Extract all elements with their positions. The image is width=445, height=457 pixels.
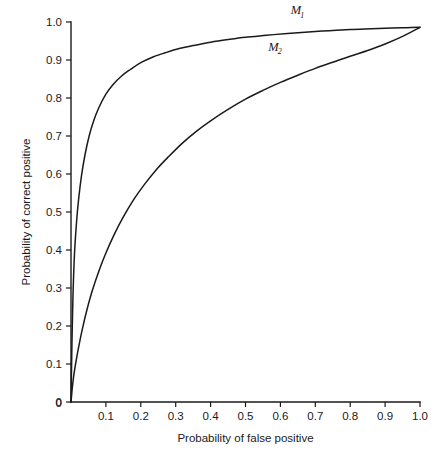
x-tick-label: 0.7 bbox=[307, 410, 323, 422]
y-tick-label: 1.0 bbox=[46, 16, 62, 28]
y-tick-label: 0.7 bbox=[46, 130, 62, 142]
y-tick-label: 0.8 bbox=[46, 92, 62, 104]
roc-chart-figure: 00.10.20.30.40.50.60.70.80.91.0 00.10.20… bbox=[0, 0, 445, 457]
y-axis-ticks bbox=[66, 22, 71, 402]
x-tick-label: 1.0 bbox=[412, 410, 428, 422]
roc-plot-svg: 00.10.20.30.40.50.60.70.80.91.0 00.10.20… bbox=[0, 0, 445, 457]
y-axis-title: Probability of correct positive bbox=[20, 138, 32, 285]
y-tick-label: 0.5 bbox=[46, 206, 62, 218]
x-tick-label: 0.6 bbox=[272, 410, 288, 422]
x-tick-label: 0.2 bbox=[133, 410, 149, 422]
x-tick-label: 0.8 bbox=[342, 410, 358, 422]
y-tick-label: 0.6 bbox=[46, 168, 62, 180]
x-axis-ticks bbox=[106, 402, 420, 407]
series-inline-labels: M1M2 bbox=[267, 3, 304, 56]
x-tick-label: 0.1 bbox=[98, 410, 114, 422]
x-tick-label: 0.5 bbox=[238, 410, 254, 422]
y-tick-label: 0.1 bbox=[46, 358, 62, 370]
x-axis-title: Probability of false positive bbox=[177, 432, 313, 444]
series-curve-m2 bbox=[71, 27, 420, 402]
y-tick-label: 0.4 bbox=[46, 244, 63, 256]
x-axis-tick-labels: 00.10.20.30.40.50.60.70.80.91.0 bbox=[56, 397, 428, 422]
x-tick-label: 0 bbox=[56, 397, 62, 409]
series-curve-m1 bbox=[71, 27, 420, 402]
series-label-subscript: 2 bbox=[278, 47, 282, 56]
x-tick-label: 0.3 bbox=[168, 410, 184, 422]
series-label-m2: M2 bbox=[267, 40, 282, 57]
series-label-m1: M1 bbox=[290, 3, 305, 20]
y-tick-label: 0.3 bbox=[46, 282, 62, 294]
series-label-subscript: 1 bbox=[300, 11, 304, 20]
y-tick-label: 0.2 bbox=[46, 320, 62, 332]
x-tick-label: 0.9 bbox=[377, 410, 393, 422]
y-axis-tick-labels: 00.10.20.30.40.50.60.70.80.91.0 bbox=[46, 16, 63, 408]
x-tick-label: 0.4 bbox=[203, 410, 220, 422]
y-tick-label: 0.9 bbox=[46, 54, 62, 66]
